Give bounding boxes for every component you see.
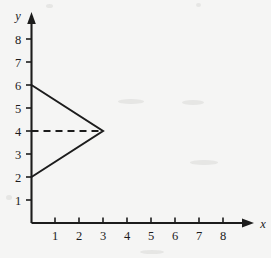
scan-speck [140, 250, 164, 254]
y-tick-label-2: 2 [15, 171, 21, 185]
x-tick-label-8: 8 [220, 229, 226, 243]
x-tick-label-3: 3 [100, 229, 106, 243]
x-tick-label-6: 6 [172, 229, 178, 243]
x-axis-arrow-icon [242, 219, 254, 228]
y-tick-label-6: 6 [15, 79, 21, 93]
y-tick-label-7: 7 [15, 56, 21, 70]
scan-speck [190, 160, 218, 165]
x-tick-label-4: 4 [124, 229, 131, 243]
y-tick-label-3: 3 [15, 148, 21, 162]
x-tick-label-7: 7 [196, 229, 202, 243]
x-tick-label-2: 2 [76, 229, 82, 243]
x-tick-label-1: 1 [52, 229, 58, 243]
y-axis-arrow-icon [27, 12, 36, 24]
y-tick-label-4: 4 [15, 125, 22, 139]
scan-speck [182, 100, 204, 105]
coordinate-plot: 1 2 3 4 5 6 7 8 1 2 3 4 5 6 7 8 y x [0, 0, 271, 258]
y-tick-label-1: 1 [15, 194, 21, 208]
scan-speck [6, 195, 12, 200]
x-axis-label: x [259, 217, 266, 231]
x-tick-label-5: 5 [148, 229, 154, 243]
scan-speck [118, 99, 144, 104]
y-tick-label-5: 5 [15, 102, 21, 116]
scan-speck [46, 4, 53, 8]
y-tick-label-8: 8 [15, 33, 21, 47]
y-axis-label: y [13, 9, 21, 23]
scan-speck [196, 3, 201, 7]
chart-figure: 1 2 3 4 5 6 7 8 1 2 3 4 5 6 7 8 y x [0, 0, 271, 258]
